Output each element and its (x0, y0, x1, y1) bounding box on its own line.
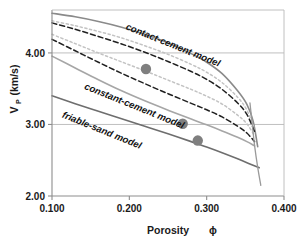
y-tick-label-0: 2.00 (26, 191, 46, 202)
y-axis-title-subscript: P (15, 99, 22, 104)
x-tick-label-0: 0.100 (39, 203, 64, 214)
data-point-3 (193, 135, 203, 145)
y-tick-label-1: 3.00 (26, 119, 46, 130)
y-tick-label-2: 4.00 (26, 48, 46, 59)
x-tick-label-3: 0.400 (271, 203, 296, 214)
x-axis-title-symbol: ϕ (209, 224, 217, 236)
x-axis-title-text: Porosity (147, 224, 189, 236)
chart-figure: 0.1000.2000.3000.4002.003.004.00 contact… (0, 0, 307, 242)
data-point-1 (141, 64, 151, 74)
x-tick-label-1: 0.200 (117, 203, 142, 214)
velocity-porosity-chart: 0.1000.2000.3000.4002.003.004.00 contact… (0, 0, 307, 242)
y-axis-title-units: (km/s) (8, 65, 20, 96)
y-axis-title-text: V (8, 106, 20, 113)
x-tick-label-2: 0.300 (194, 203, 219, 214)
